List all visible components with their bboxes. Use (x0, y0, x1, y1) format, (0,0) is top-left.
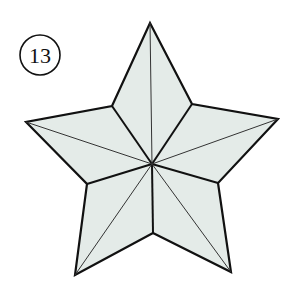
star-shape (26, 23, 278, 275)
step-number-badge: 13 (20, 35, 60, 75)
step-number: 13 (29, 43, 51, 68)
origami-star-diagram: 13 (0, 0, 292, 286)
